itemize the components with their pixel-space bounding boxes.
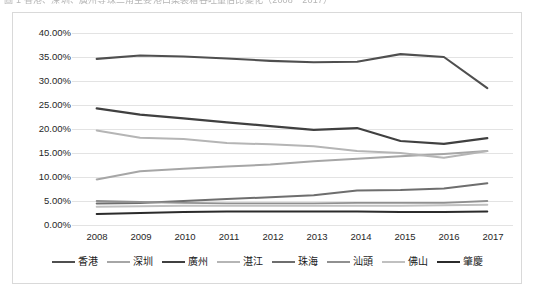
legend-color-swatch: [272, 261, 295, 263]
legend-color-swatch: [217, 261, 240, 263]
y-axis-tick-label: 10.00%: [19, 172, 71, 182]
legend-label: 肇慶: [463, 256, 483, 268]
legend-item[interactable]: 深圳: [107, 256, 153, 268]
y-axis-tick-label: 5.00%: [19, 196, 71, 206]
series-line: [97, 130, 488, 157]
series-lines: [97, 54, 488, 214]
legend-item[interactable]: 汕頭: [327, 256, 373, 268]
x-axis-tick-label: 2009: [119, 229, 163, 245]
legend-item[interactable]: 肇慶: [437, 256, 483, 268]
y-axis-tick-label: 30.00%: [19, 76, 71, 86]
legend-label: 珠海: [298, 256, 318, 268]
x-axis-tick-labels: 2008200920102011201220132014201520162017: [75, 229, 515, 245]
legend-item[interactable]: 廣州: [162, 256, 208, 268]
y-axis-tick-label: 40.00%: [19, 28, 71, 38]
series-line: [97, 183, 488, 203]
x-axis-tick-label: 2012: [251, 229, 295, 245]
series-line: [97, 212, 488, 214]
x-axis-tick-label: 2013: [295, 229, 339, 245]
legend-label: 香港: [78, 256, 98, 268]
legend-item[interactable]: 香港: [52, 256, 98, 268]
legend-color-swatch: [52, 261, 75, 263]
legend-color-swatch: [382, 261, 405, 263]
figure-caption-strip: 圖 1 香港、深圳、廣州等珠三角主要港口集裝箱吞吐量佔比變化（2008－2017…: [0, 0, 533, 9]
legend-color-swatch: [327, 261, 350, 263]
legend-label: 廣州: [188, 256, 208, 268]
legend-color-swatch: [107, 261, 130, 263]
y-axis-tick-label: 0.00%: [19, 220, 71, 230]
legend-item[interactable]: 湛江: [217, 256, 263, 268]
x-axis-tick-label: 2010: [163, 229, 207, 245]
chart-legend: 香港深圳廣州湛江珠海汕頭佛山肇慶: [13, 251, 521, 273]
x-axis-tick-label: 2011: [207, 229, 251, 245]
y-axis-tick-labels: 40.00%35.00%30.00%25.00%20.00%15.00%10.0…: [15, 13, 71, 223]
legend-label: 深圳: [133, 256, 153, 268]
x-axis-tick-label: 2016: [427, 229, 471, 245]
legend-item[interactable]: 佛山: [382, 256, 428, 268]
x-axis-tick-label: 2014: [339, 229, 383, 245]
chart-frame: 40.00%35.00%30.00%25.00%20.00%15.00%10.0…: [12, 12, 522, 284]
x-axis-tick-label: 2017: [471, 229, 515, 245]
series-line: [97, 205, 488, 207]
legend-label: 佛山: [408, 256, 428, 268]
y-axis-tick-label: 35.00%: [19, 52, 71, 62]
x-axis-tick-label: 2008: [75, 229, 119, 245]
y-axis-tick-label: 15.00%: [19, 148, 71, 158]
y-axis-tick-label: 25.00%: [19, 100, 71, 110]
legend-color-swatch: [162, 261, 185, 263]
legend-label: 汕頭: [353, 256, 373, 268]
series-line: [97, 54, 488, 88]
legend-label: 湛江: [243, 256, 263, 268]
legend-color-swatch: [437, 261, 460, 263]
y-axis-tick-label: 20.00%: [19, 124, 71, 134]
figure-caption-text: 圖 1 香港、深圳、廣州等珠三角主要港口集裝箱吞吐量佔比變化（2008－2017…: [0, 0, 533, 5]
x-axis-tick-label: 2015: [383, 229, 427, 245]
legend-item[interactable]: 珠海: [272, 256, 318, 268]
